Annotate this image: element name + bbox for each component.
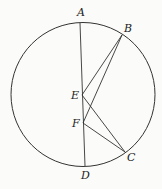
label-c: C: [127, 151, 136, 164]
label-b: B: [123, 22, 132, 35]
segment-ec: [82, 95, 125, 152]
segment-fc: [83, 123, 125, 152]
segment-eb: [82, 35, 122, 95]
circle: [11, 23, 155, 167]
circle-figure: A B E F C D: [0, 0, 162, 189]
geometry-diagram: A B E F C D: [0, 0, 162, 189]
label-d: D: [80, 169, 90, 182]
label-f: F: [71, 117, 80, 130]
label-a: A: [76, 6, 85, 19]
label-e: E: [70, 89, 79, 102]
segments: [80, 23, 125, 166]
segment-fb: [83, 35, 122, 123]
